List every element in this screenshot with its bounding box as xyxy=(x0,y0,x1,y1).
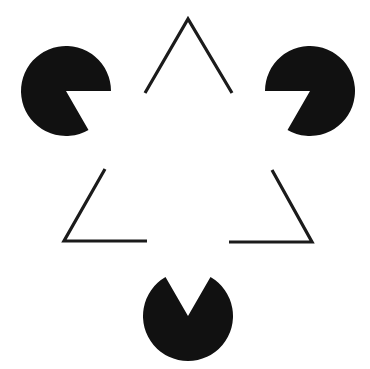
illusion-canvas xyxy=(0,0,370,369)
kanizsa-figure-canvas: Kanizsa Triangle Illusory contour figure… xyxy=(0,0,370,369)
